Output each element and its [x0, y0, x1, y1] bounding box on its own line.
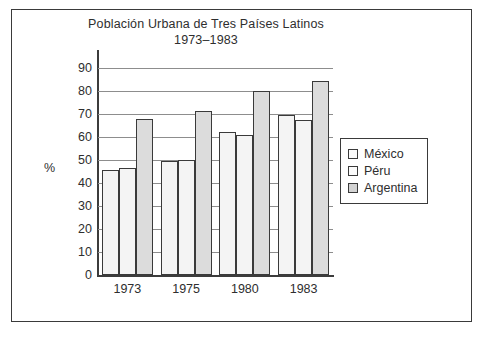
bar-mxico-1980[interactable]: [219, 132, 236, 275]
bar-group: [216, 68, 275, 275]
legend-label: México: [364, 148, 404, 161]
y-tick-label: 90: [58, 61, 92, 75]
chart-title-block: Población Urbana de Tres Países Latinos …: [56, 17, 356, 48]
legend-swatch-icon: [348, 149, 358, 159]
bar-group: [274, 68, 333, 275]
bar-group: [98, 68, 157, 275]
y-tick-label: 60: [58, 130, 92, 144]
x-tick-label: 1975: [172, 282, 200, 296]
y-tick-label: 70: [58, 107, 92, 121]
y-tick-label: 0: [58, 268, 92, 282]
x-tick-label: 1980: [231, 282, 259, 296]
legend-swatch-icon: [348, 166, 358, 176]
x-tick-label: 1973: [113, 282, 141, 296]
legend-label: Argentina: [364, 182, 418, 195]
bar-pru-1983[interactable]: [295, 120, 312, 275]
page-title: Población Urbana de Tres Países Latinos: [56, 17, 356, 33]
legend-item-peru[interactable]: Péru: [348, 163, 418, 179]
legend-label: Péru: [364, 165, 390, 178]
y-tick-label: 30: [58, 199, 92, 213]
plot-inner: [98, 68, 333, 275]
bar-argentina-1980[interactable]: [253, 91, 270, 275]
x-axis-line: [97, 275, 334, 277]
bar-mxico-1973[interactable]: [102, 170, 119, 275]
y-tick-label: 10: [58, 245, 92, 259]
bar-mxico-1975[interactable]: [161, 161, 178, 275]
bar-pru-1975[interactable]: [178, 160, 195, 275]
legend-item-mexico[interactable]: México: [348, 146, 418, 162]
bar-mxico-1983[interactable]: [278, 115, 295, 275]
chart-subtitle: 1973–1983: [56, 33, 356, 49]
bar-pru-1980[interactable]: [236, 135, 253, 275]
y-tick-label: 40: [58, 176, 92, 190]
y-tick-label: 50: [58, 153, 92, 167]
plot-area: [98, 52, 333, 275]
bar-pru-1973[interactable]: [119, 168, 136, 275]
y-tick-label: 20: [58, 222, 92, 236]
bar-argentina-1973[interactable]: [136, 119, 153, 275]
legend-item-argentina[interactable]: Argentina: [348, 180, 418, 196]
bar-group: [157, 68, 216, 275]
bar-argentina-1975[interactable]: [195, 111, 212, 275]
y-tick-labels: 0102030405060708090: [54, 0, 92, 337]
y-tick-label: 80: [58, 84, 92, 98]
bar-argentina-1983[interactable]: [312, 81, 329, 275]
x-tick-label: 1983: [290, 282, 318, 296]
legend-swatch-icon: [348, 183, 358, 193]
chart-legend[interactable]: México Péru Argentina: [340, 138, 428, 204]
chart-figure: Población Urbana de Tres Países Latinos …: [0, 0, 486, 337]
